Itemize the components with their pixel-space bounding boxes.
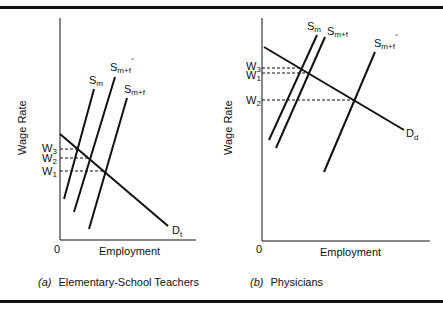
supply-curve-smf	[276, 37, 325, 148]
panel-b: Wage Rate Employment 0 Sm Sm+f Sm+f´ Dd …	[222, 18, 430, 258]
supply-curve-smf-prime	[324, 52, 375, 172]
y-axis-label: Wage Rate	[16, 100, 28, 155]
label-w1: W1	[42, 165, 57, 179]
demand-curve-dt	[60, 134, 168, 226]
label-smf: Sm+f	[327, 25, 349, 39]
supply-curve-sm	[64, 89, 94, 199]
label-w2: W2	[246, 94, 261, 108]
label-smf: Sm+f	[124, 83, 146, 97]
caption-a: (a) Elementary-School Teachers	[38, 276, 199, 288]
y-axis-label: Wage Rate	[222, 100, 234, 155]
origin-label: 0	[256, 243, 262, 255]
supply-curve-smf-prime	[74, 77, 115, 212]
figure: Wage Rate Employment 0 Sm Sm+f´ Sm+f Dt …	[0, 0, 443, 309]
demand-curve-dd	[264, 47, 404, 130]
label-smf-prime: Sm+f´	[110, 57, 135, 75]
supply-curve-sm	[269, 35, 317, 140]
label-dt: Dt	[172, 224, 183, 239]
caption-b-tag: (b)	[250, 276, 263, 288]
label-sm: Sm	[89, 74, 103, 88]
caption-a-text: Elementary-School Teachers	[59, 276, 199, 288]
label-sm: Sm	[307, 20, 321, 34]
caption-b: (b) Physicians	[250, 276, 323, 288]
origin-label: 0	[54, 243, 60, 255]
panel-a: Wage Rate Employment 0 Sm Sm+f´ Sm+f Dt …	[16, 18, 196, 257]
x-axis-label: Employment	[99, 245, 160, 257]
caption-a-tag: (a)	[38, 276, 51, 288]
caption-b-text: Physicians	[271, 276, 324, 288]
x-axis-label: Employment	[320, 246, 381, 258]
label-smf-prime: Sm+f´	[374, 33, 399, 51]
label-dd: Dd	[406, 127, 418, 142]
